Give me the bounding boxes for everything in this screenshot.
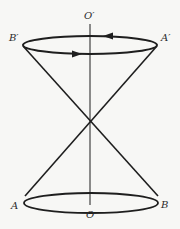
label-o-prime: O′ — [84, 10, 95, 21]
label-b: B — [160, 199, 168, 210]
arrow-right-icon — [72, 51, 82, 58]
double-cone-diagram: O′ B′ A′ A B O — [0, 0, 180, 229]
label-a: A — [10, 200, 18, 211]
label-b-prime: B′ — [8, 32, 19, 43]
label-o: O — [86, 209, 94, 220]
label-a-prime: A′ — [160, 32, 171, 43]
arrow-left-icon — [103, 33, 113, 40]
